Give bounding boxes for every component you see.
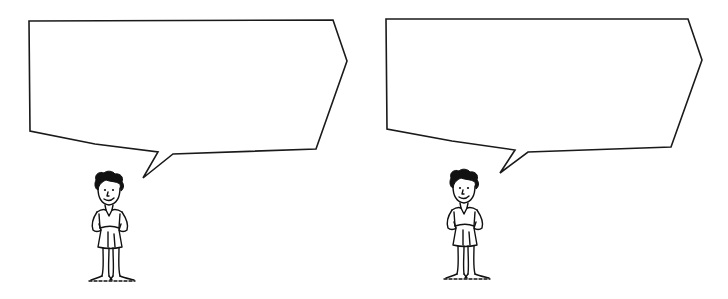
boy-figure-icon [89,171,135,281]
speech-bubble-left-text[interactable] [40,30,330,140]
speech-bubble-right-text[interactable] [397,28,687,138]
boy-figure-icon [444,169,490,279]
